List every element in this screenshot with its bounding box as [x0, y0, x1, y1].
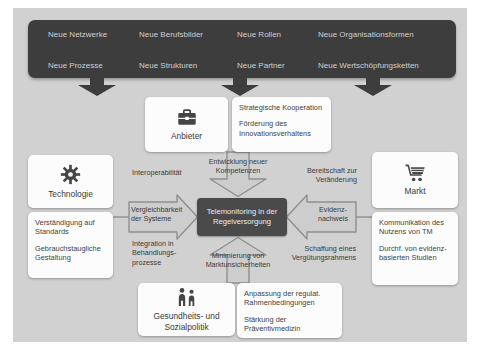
politik-card: Gesundheits- und Sozialpolitik — [138, 283, 235, 336]
markt-label: Markt — [405, 186, 426, 197]
diagram-canvas: Neue Netzwerke Neue Berufsbilder Neue Ro… — [0, 0, 479, 354]
technologie-label: Technologie — [48, 189, 93, 200]
gear-icon — [60, 164, 81, 185]
markt-card: Markt — [372, 152, 458, 208]
factor-item: Förderung des Innovationsverhaltens — [239, 119, 324, 138]
arrow-label-left: Vergleichbarkeit der Systeme — [131, 205, 187, 224]
technologie-card: Technologie — [28, 155, 113, 208]
banner-label: Neue Organisationsformen — [318, 29, 456, 48]
factor-item: Stärkung der Präventivmedizin — [244, 315, 335, 334]
factor-item: Durchf. von evidenz-basierten Studien — [379, 244, 451, 263]
politik-factors-card: Anpassung der regulat. Rahmenbedingungen… — [237, 283, 342, 338]
factor-item: Strategische Kooperation — [239, 103, 324, 112]
drivers-banner: Neue Netzwerke Neue Berufsbilder Neue Ro… — [28, 20, 456, 78]
anbieter-factors-card: Strategische Kooperation Förderung des I… — [232, 97, 331, 152]
banner-label: Neue Strukturen — [139, 60, 237, 79]
side-label-bereitschaft: Bereitschaft zur Veränderung — [293, 166, 357, 185]
factor-item: Anpassung der regulat. Rahmenbedingungen — [244, 289, 335, 308]
side-label-schaffung: Schaffung eines Vergütungsrahmens — [272, 244, 356, 263]
briefcase-icon — [176, 108, 198, 127]
factor-item: Gebrauchstaugliche Gestaltung — [35, 244, 106, 263]
anbieter-card: Anbieter — [145, 97, 228, 152]
technologie-factors-card: Verständigung auf Standards Gebrauchstau… — [28, 212, 113, 278]
arrow-label-right: Evidenz-nachweis — [310, 205, 356, 224]
side-label-integration: Integration in Behandlungs-prozesse — [132, 239, 192, 267]
factor-item: Verständigung auf Standards — [35, 218, 106, 237]
side-label-interoperabilitaet: Interoperabilität — [132, 168, 202, 177]
banner-label: Neue Partner — [237, 60, 318, 79]
banner-label: Neue Netzwerke — [48, 29, 139, 48]
center-node: Telemonitoring in der Regelversorgung — [197, 198, 287, 236]
banner-label: Neue Berufsbilder — [139, 29, 237, 48]
center-node-label: Telemonitoring in der Regelversorgung — [201, 207, 283, 227]
banner-label: Neue Prozesse — [48, 60, 139, 79]
politik-label: Gesundheits- und Sozialpolitik — [142, 311, 232, 332]
factor-item: Kommunikation des Nutzens von TM — [379, 218, 451, 237]
banner-label: Neue Wertschöpfungsketten — [318, 60, 456, 79]
markt-factors-card: Kommunikation des Nutzens von TM Durchf.… — [372, 212, 458, 285]
cart-icon — [404, 163, 427, 182]
banner-label: Neue Rollen — [237, 29, 318, 48]
anbieter-label: Anbieter — [171, 131, 202, 142]
people-icon — [175, 287, 199, 307]
